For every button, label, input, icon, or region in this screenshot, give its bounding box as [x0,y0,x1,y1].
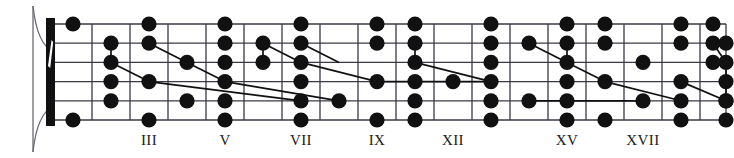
note-dot-s2-f18 [705,36,720,51]
note-dot-s6-f15 [597,112,612,127]
note-dot-s3-f4 [179,55,194,70]
note-dot-s3-f5 [217,55,232,70]
note-dot-s2-f5 [217,36,232,51]
note-dot-s1-f5 [217,16,232,31]
note-dot-s4-f5 [217,74,232,89]
note-dot-s5-f13 [521,93,536,108]
note-dot-s5-f20 [718,93,733,108]
note-dot-s3-f16 [635,55,650,70]
note-dot-s3-f10 [407,55,422,70]
note-dot-s5-f10 [407,93,422,108]
note-dot-s2-f7 [293,36,308,51]
note-dot-s5-f14 [559,93,574,108]
note-dot-s3-f2 [103,55,118,70]
note-dot-s6-f9 [369,112,384,127]
note-dot-s5-f7 [293,93,308,108]
note-dot-s2-f17 [673,36,688,51]
fret-label-XVII: XVII [626,132,659,149]
note-dot-s3-f6 [255,55,270,70]
note-dot-s2-f9 [369,36,384,51]
note-dot-s4-f3 [141,74,156,89]
note-dot-s2-f12 [483,36,498,51]
note-dot-s4-f11 [445,74,460,89]
note-dot-s3-f19 [718,55,733,70]
note-dot-s3-f7 [293,55,308,70]
note-dot-s3-f18 [705,55,720,70]
note-dot-s5-f16 [635,93,650,108]
note-dot-s4-f12 [483,74,498,89]
note-dot-s2-f20 [718,36,733,51]
note-dot-s2-f6 [255,36,270,51]
note-dot-s5-f5 [217,93,232,108]
note-dot-s5-f17 [673,93,688,108]
note-dot-s6-f14 [559,112,574,127]
note-dot-s2-f13 [521,36,536,51]
note-dot-s6-f17 [673,112,688,127]
fret-label-XV: XV [556,132,578,149]
note-dot-s5-f12 [483,93,498,108]
note-dot-s6-f5 [217,112,232,127]
note-dot-s1-f10 [407,16,422,31]
fretboard-canvas [0,0,734,158]
fret-label-III: III [141,132,157,149]
note-dot-s2-f3 [141,36,156,51]
note-dot-s6-f12 [483,112,498,127]
note-dot-s4-f19 [718,74,733,89]
fretboard-diagram: IIIVVIIIXXIIXVXVII [0,0,734,158]
note-dot-s4-f10 [407,74,422,89]
fret-label-XII: XII [442,132,464,149]
note-dot-s4-f2 [103,74,118,89]
note-dot-s1-f3 [141,16,156,31]
note-dot-s5-f8 [331,93,346,108]
fret-label-VII: VII [290,132,312,149]
nut-bar [46,18,55,126]
note-dot-s1-f7 [293,16,308,31]
note-dot-s2-f10 [407,36,422,51]
fret-label-IX: IX [369,132,386,149]
note-dot-s4-f15 [597,74,612,89]
note-dot-s4-f9 [369,74,384,89]
note-dot-s1-f14 [559,16,574,31]
note-dot-s5-f4 [179,93,194,108]
note-dot-s6-f10 [407,112,422,127]
note-dot-s1-f15 [597,16,612,31]
note-dot-s4-f7 [293,74,308,89]
fret-label-V: V [219,132,230,149]
note-dot-s1-f18 [705,16,720,31]
note-dot-s3-f14 [559,55,574,70]
note-dot-s1-f17 [673,16,688,31]
note-dot-s2-f14 [559,36,574,51]
note-dot-s3-f12 [483,55,498,70]
note-dot-s4-f14 [559,74,574,89]
note-dot-s6-f1 [65,112,80,127]
note-dot-s2-f2 [103,36,118,51]
note-dot-s2-f15 [597,36,612,51]
note-dot-s4-f17 [673,74,688,89]
nut-group [46,18,55,126]
note-dot-s6-f19 [718,112,733,127]
note-dot-s1-f9 [369,16,384,31]
note-dot-s1-f1 [65,16,80,31]
note-dot-s6-f7 [293,112,308,127]
note-dot-s5-f2 [103,93,118,108]
note-dot-s6-f3 [141,112,156,127]
note-dot-s1-f12 [483,16,498,31]
